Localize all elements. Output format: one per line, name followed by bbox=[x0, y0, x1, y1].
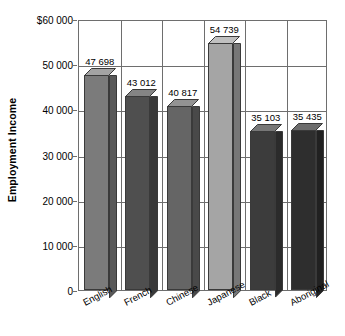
y-axis-tick-label: 50 000 bbox=[9, 60, 73, 71]
gridline-vertical bbox=[204, 21, 205, 290]
y-axis-tick-label: $60 000 bbox=[9, 15, 73, 26]
plot-area bbox=[78, 20, 327, 291]
bar-top-face bbox=[250, 124, 282, 131]
bar-front-face bbox=[125, 96, 150, 290]
bar-value-label: 54 739 bbox=[210, 24, 239, 35]
y-axis-tick-label: 30 000 bbox=[9, 150, 73, 161]
gridline-vertical bbox=[162, 21, 163, 290]
bar-top-face bbox=[167, 99, 199, 106]
bar-side-face bbox=[192, 106, 199, 297]
bar-value-label: 43 012 bbox=[127, 77, 156, 88]
gridline-vertical bbox=[287, 21, 288, 290]
bar-top-face bbox=[208, 36, 240, 43]
bar-side-face bbox=[109, 75, 116, 297]
bar-side-face bbox=[316, 130, 323, 297]
bar-front-face bbox=[208, 43, 233, 290]
y-axis-tick-label: 40 000 bbox=[9, 105, 73, 116]
bar bbox=[291, 130, 316, 290]
y-axis-tick-mark bbox=[72, 246, 77, 247]
bar bbox=[208, 43, 233, 290]
y-axis-tick-mark bbox=[72, 201, 77, 202]
y-axis-tick-mark bbox=[72, 156, 77, 157]
y-axis-tick-mark bbox=[72, 65, 77, 66]
bar-front-face bbox=[167, 106, 192, 290]
bar-top-face bbox=[291, 123, 323, 130]
bar-front-face bbox=[84, 75, 109, 290]
bar-front-face bbox=[291, 130, 316, 290]
gridline-vertical bbox=[121, 21, 122, 290]
y-axis-tick-label: 0 bbox=[9, 286, 73, 297]
bar-value-label: 35 435 bbox=[293, 111, 322, 122]
y-axis-tick-mark bbox=[72, 291, 77, 292]
y-axis-tick-mark bbox=[72, 110, 77, 111]
bar-top-face bbox=[84, 68, 116, 75]
bar bbox=[125, 96, 150, 290]
bar-value-label: 47 698 bbox=[85, 56, 114, 67]
bar-chart: Employment Income $60 00050 00040 00030 … bbox=[0, 0, 345, 336]
bar-top-face bbox=[125, 89, 157, 96]
bar-value-label: 40 817 bbox=[168, 87, 197, 98]
y-axis-tick-label: 20 000 bbox=[9, 195, 73, 206]
bar bbox=[167, 106, 192, 290]
bar-value-label: 35 103 bbox=[251, 112, 280, 123]
y-axis-tick-mark bbox=[72, 20, 77, 21]
bar-side-face bbox=[275, 131, 282, 297]
gridline-vertical bbox=[245, 21, 246, 290]
bar-side-face bbox=[150, 96, 157, 297]
gridline-horizontal bbox=[79, 66, 326, 67]
y-axis-tick-label: 10 000 bbox=[9, 240, 73, 251]
bar-front-face bbox=[250, 131, 275, 290]
bar bbox=[250, 131, 275, 290]
bar bbox=[84, 75, 109, 290]
bar-side-face bbox=[233, 43, 240, 297]
